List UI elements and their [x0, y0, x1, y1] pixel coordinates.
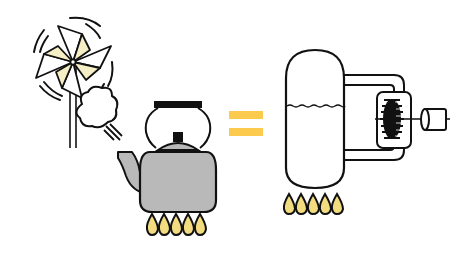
steam-power-diagram: Steam from a kettle turning a pinwheel i… — [0, 0, 475, 255]
generator-icon — [421, 109, 446, 130]
right-scene — [284, 50, 450, 214]
left-scene — [34, 18, 216, 235]
kettle-body — [140, 152, 216, 212]
boiler-tank — [286, 50, 344, 188]
turbine-rotor-icon — [380, 99, 404, 139]
steam-cloud-icon — [76, 87, 122, 140]
kettle-lid — [158, 132, 198, 150]
boiler-burner-flames-icon — [284, 194, 343, 214]
kettle-burner-flames-icon — [147, 214, 206, 235]
equals-sign-icon — [229, 111, 263, 136]
